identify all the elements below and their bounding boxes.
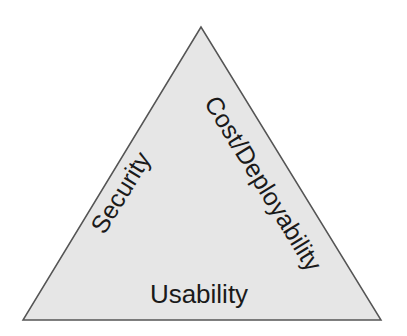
- label-usability: Usability: [150, 279, 248, 309]
- tradeoff-triangle-diagram: Security Cost/Deployability Usability: [0, 0, 407, 336]
- triangle-shape: [23, 27, 381, 320]
